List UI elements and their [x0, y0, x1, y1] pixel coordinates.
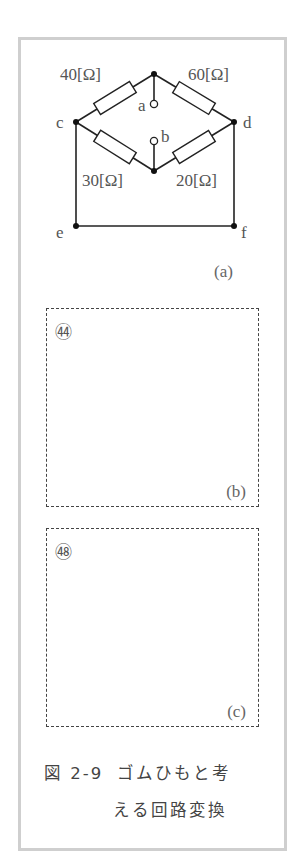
- node-f: [231, 223, 237, 229]
- terminal-label-b: b: [161, 127, 170, 146]
- answer-box-b: ㊹ (b): [46, 308, 259, 507]
- resistor-20: [173, 130, 216, 163]
- resistor-30: [94, 130, 136, 163]
- figure-caption-line1: 図 2-9ゴムひもと考: [44, 760, 231, 784]
- node-label-f: f: [241, 223, 247, 242]
- subfigure-label-c: (c): [227, 702, 246, 722]
- node-bottom: [151, 168, 157, 174]
- subfigure-label-b: (b): [226, 482, 246, 502]
- answer-number-48: ㊽: [55, 538, 72, 563]
- node-top: [151, 71, 157, 77]
- resistor-label-60: 60[Ω]: [188, 65, 229, 84]
- terminal-a: [150, 100, 157, 107]
- resistor-label-20: 20[Ω]: [176, 171, 217, 190]
- answer-box-c: ㊽ (c): [46, 528, 259, 727]
- figure-number: 図 2-9: [44, 764, 103, 783]
- node-d: [231, 119, 237, 125]
- node-c: [73, 119, 79, 125]
- resistor-60: [173, 82, 216, 115]
- node-label-c: c: [56, 113, 64, 132]
- bridge-circuit-diagram: 40[Ω] 60[Ω] 30[Ω] 20[Ω] c d e f a b: [0, 0, 298, 300]
- answer-number-44: ㊹: [55, 318, 72, 343]
- resistor-label-30: 30[Ω]: [82, 171, 123, 190]
- resistor-label-40: 40[Ω]: [60, 65, 101, 84]
- figure-caption-line2: える回路変換: [113, 797, 227, 821]
- terminal-label-a: a: [138, 96, 146, 115]
- node-e: [73, 223, 79, 229]
- node-label-e: e: [56, 223, 64, 242]
- subfigure-label-a: (a): [214, 262, 233, 282]
- node-label-d: d: [243, 113, 252, 132]
- caption-text-1: ゴムひもと考: [117, 764, 231, 783]
- terminal-b: [150, 137, 157, 144]
- resistor-40: [94, 81, 137, 114]
